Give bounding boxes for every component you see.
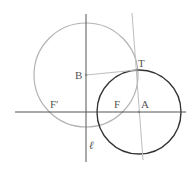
label-t: T [138, 57, 145, 69]
label-f: F [114, 98, 120, 110]
tangent-line-through-t [132, 13, 143, 160]
point-t [136, 69, 139, 72]
label-f-prime: F′ [50, 98, 59, 110]
label-a: A [141, 98, 149, 110]
label-b: B [75, 69, 82, 81]
point-b [85, 74, 88, 77]
segment-b-t [86, 70, 137, 75]
label-ell: ℓ [89, 139, 94, 151]
point-a [138, 111, 141, 114]
ellipse-construction-diagram: B T A F F′ ℓ [0, 0, 192, 169]
